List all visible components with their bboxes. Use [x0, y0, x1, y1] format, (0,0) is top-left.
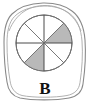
figure-label: B — [0, 80, 90, 97]
figure-container: B — [0, 0, 90, 104]
